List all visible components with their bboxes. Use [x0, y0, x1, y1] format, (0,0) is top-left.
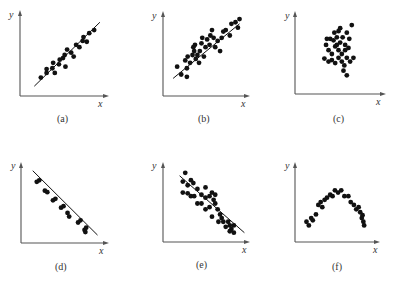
data-point: [329, 52, 334, 57]
data-point: [233, 20, 238, 25]
data-point: [38, 75, 43, 80]
y-axis-arrow-icon: [19, 162, 23, 168]
data-point: [83, 230, 88, 235]
data-point: [84, 225, 89, 230]
data-point: [227, 33, 232, 38]
data-point: [200, 35, 205, 40]
data-point: [183, 170, 188, 175]
y-axis-arrow-icon: [161, 162, 165, 168]
data-point: [195, 187, 200, 192]
panel-caption: (b): [198, 113, 210, 125]
data-point: [341, 68, 346, 73]
plot-area: [322, 23, 356, 78]
panel-b: y x (b): [151, 10, 250, 125]
x-axis-label: x: [241, 244, 247, 255]
data-point: [351, 55, 356, 60]
panel-caption: (d): [55, 261, 67, 273]
y-axis-arrow-icon: [161, 11, 165, 17]
data-point: [201, 54, 206, 59]
y-axis-label: y: [151, 160, 157, 171]
x-axis-arrow-icon: [103, 94, 109, 98]
data-point: [219, 35, 224, 40]
data-point: [342, 63, 347, 68]
data-point: [192, 194, 197, 199]
data-point: [71, 54, 76, 59]
data-point: [192, 49, 197, 54]
data-point: [77, 45, 82, 50]
data-point: [348, 59, 353, 64]
plot-area: [304, 188, 366, 228]
data-point: [339, 188, 344, 193]
data-point: [191, 181, 196, 186]
scatter-figure: y x (a) y x (b) y x (c) y x (d): [0, 0, 393, 282]
data-point: [346, 46, 351, 51]
data-point: [344, 55, 349, 60]
data-point: [320, 205, 325, 210]
data-point: [63, 64, 68, 69]
x-axis-arrow-icon: [380, 92, 386, 96]
data-point: [45, 190, 50, 195]
plot-area: [173, 17, 242, 80]
y-axis-label: y: [10, 160, 16, 171]
data-point: [50, 66, 55, 71]
data-point: [333, 61, 338, 66]
data-point: [185, 54, 190, 59]
data-point: [339, 52, 344, 57]
data-point: [53, 196, 58, 201]
data-point: [314, 212, 319, 217]
y-axis-arrow-icon: [293, 11, 297, 17]
data-point: [351, 203, 356, 208]
data-point: [334, 42, 339, 47]
data-point: [236, 25, 241, 30]
data-point: [330, 194, 335, 199]
data-point: [336, 48, 341, 53]
data-point: [332, 30, 337, 35]
fit-line: [33, 171, 98, 235]
data-point: [338, 26, 343, 31]
data-point: [306, 223, 311, 228]
panel-caption: (c): [333, 113, 344, 125]
x-axis-label: x: [97, 98, 103, 109]
data-point: [199, 192, 204, 197]
x-axis-label: x: [375, 96, 381, 107]
data-point: [346, 194, 351, 199]
data-point: [185, 183, 190, 188]
x-axis-arrow-icon: [103, 241, 109, 245]
panel-f: y x (f): [284, 160, 380, 273]
panel-e: y x (e): [151, 160, 250, 271]
y-axis-label: y: [284, 10, 290, 21]
data-point: [52, 71, 57, 76]
data-point: [324, 36, 329, 41]
data-point: [67, 214, 72, 219]
data-point: [197, 49, 202, 54]
data-point: [356, 205, 361, 210]
data-point: [349, 23, 354, 28]
data-point: [199, 201, 204, 206]
data-point: [331, 38, 336, 43]
data-point: [84, 39, 89, 44]
data-point: [87, 31, 92, 36]
data-point: [179, 72, 184, 77]
data-point: [188, 60, 193, 65]
data-point: [203, 185, 208, 190]
data-point: [211, 35, 216, 40]
data-point: [231, 223, 236, 228]
x-axis-label: x: [372, 244, 378, 255]
data-point: [207, 42, 212, 47]
plot-area: [180, 170, 245, 235]
data-point: [324, 42, 329, 47]
data-point: [237, 17, 242, 22]
data-point: [360, 213, 365, 218]
data-point: [340, 35, 345, 40]
data-point: [221, 219, 226, 224]
data-point: [203, 207, 208, 212]
data-point: [347, 36, 352, 41]
data-point: [197, 60, 202, 65]
data-point: [57, 62, 62, 67]
data-point: [326, 48, 331, 53]
x-axis-label: x: [98, 245, 104, 256]
data-point: [362, 223, 367, 228]
data-point: [65, 47, 70, 52]
data-point: [180, 179, 185, 184]
data-point: [231, 230, 236, 235]
